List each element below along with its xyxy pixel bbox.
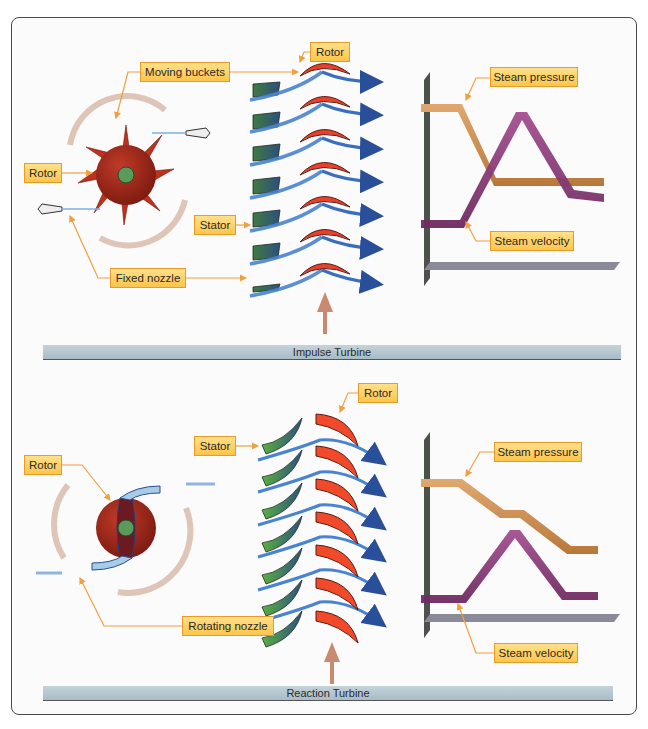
label-rotor-impulse: Rotor <box>24 163 62 183</box>
rotation-arrow-icon <box>100 200 185 245</box>
impulse-blade-column <box>250 63 378 296</box>
label-steam-pressure-reaction: Steam pressure <box>494 442 582 462</box>
flow-direction-arrow-icon <box>324 642 340 684</box>
steam-velocity-ribbon <box>421 112 604 228</box>
impulse-nozzle-icon <box>38 204 100 214</box>
flow-direction-arrow-icon <box>317 292 333 334</box>
label-steam-pressure-impulse: Steam pressure <box>490 67 578 87</box>
rotation-arrow-icon <box>54 485 68 558</box>
label-steam-velocity-impulse: Steam velocity <box>490 231 574 251</box>
reaction-graph <box>421 432 620 638</box>
impulse-graph <box>421 72 620 286</box>
reaction-turbine-title: Reaction Turbine <box>43 686 613 701</box>
label-fixed-nozzle: Fixed nozzle <box>110 268 186 288</box>
label-moving-buckets: Moving buckets <box>140 62 230 82</box>
impulse-turbine-title: Impulse Turbine <box>43 345 621 360</box>
label-rotor-reaction: Rotor <box>24 455 62 475</box>
label-stator-impulse: Stator <box>194 215 236 235</box>
label-rotor-top-impulse: Rotor <box>310 42 350 62</box>
impulse-rotor-wheel <box>78 125 174 225</box>
label-rotor-top-reaction: Rotor <box>358 383 398 403</box>
reaction-blade-column <box>258 414 382 647</box>
label-stator-reaction: Stator <box>194 436 236 456</box>
reaction-section <box>36 393 620 684</box>
impulse-section <box>38 52 620 334</box>
label-rotating-nozzle: Rotating nozzle <box>182 616 274 636</box>
turbine-diagram <box>0 0 648 729</box>
steam-velocity-ribbon <box>421 530 598 603</box>
label-steam-velocity-reaction: Steam velocity <box>494 643 578 663</box>
steam-pressure-ribbon <box>421 104 604 186</box>
reaction-rotor-wheel <box>92 486 160 570</box>
rotation-arrow-icon <box>70 96 165 145</box>
